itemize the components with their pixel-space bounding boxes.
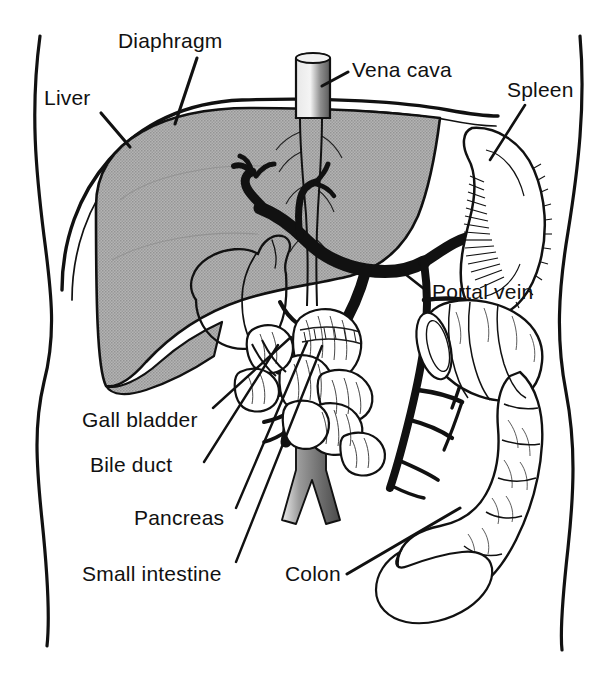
label-spleen: Spleen — [507, 78, 574, 101]
label-pancreas: Pancreas — [134, 506, 224, 529]
anatomy-diagram: Diaphragm Liver Vena cava Spleen Portal … — [0, 0, 612, 681]
label-small-intestine: Small intestine — [82, 562, 222, 585]
label-liver: Liver — [44, 86, 91, 109]
label-vena-cava: Vena cava — [352, 58, 452, 81]
label-colon: Colon — [285, 562, 341, 585]
label-gall-bladder: Gall bladder — [82, 408, 198, 431]
label-bile-duct: Bile duct — [90, 453, 172, 476]
label-portal-vein: Portal vein — [432, 280, 533, 303]
label-diaphragm: Diaphragm — [118, 29, 223, 52]
